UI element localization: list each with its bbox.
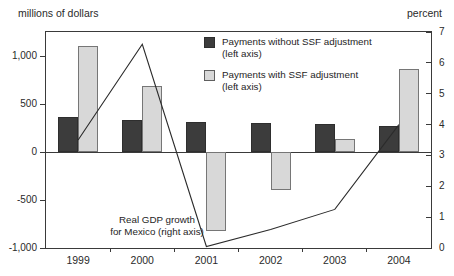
x-axis-label-2001: 2001 <box>195 254 218 266</box>
right-axis-tick <box>426 62 431 63</box>
left-axis-tick <box>40 152 45 153</box>
right-axis-tick-label: 6 <box>439 58 445 68</box>
right-axis-tick-label: 0 <box>439 243 445 253</box>
right-axis-tick <box>426 186 431 187</box>
x-axis-tick <box>174 248 175 252</box>
right-axis-tick <box>426 124 431 125</box>
right-axis-tick-label: 4 <box>439 120 445 130</box>
left-axis-tick <box>40 248 45 249</box>
right-axis-tick <box>426 248 431 249</box>
left-axis-tick-label: 1,000 <box>12 51 37 61</box>
left-axis-tick-label: 0 <box>31 147 37 157</box>
plot-area: Payments without SSF adjustment (left ax… <box>45 31 432 249</box>
x-axis-label-2004: 2004 <box>387 254 410 266</box>
chart-figure: millions of dollars percent Payments wit… <box>0 0 454 276</box>
x-axis-tick <box>366 248 367 252</box>
right-axis-tick-label: 2 <box>439 181 445 191</box>
right-axis-tick-label: 5 <box>439 89 445 99</box>
right-axis-tick <box>426 217 431 218</box>
right-axis-tick <box>426 32 431 33</box>
left-axis-tick <box>40 56 45 57</box>
right-axis-tick-label: 1 <box>439 212 445 222</box>
left-axis-tick-label: -1,000 <box>9 243 37 253</box>
right-axis-tick <box>426 93 431 94</box>
page: { "chart_data": { "type": "bar", "catego… <box>0 0 454 276</box>
left-axis-tick <box>40 104 45 105</box>
x-axis-label-1999: 1999 <box>66 254 89 266</box>
left-axis-tick <box>40 200 45 201</box>
left-axis-tick-label: -500 <box>17 195 37 205</box>
gdp-growth-line <box>46 32 431 248</box>
right-axis-tick-label: 3 <box>439 150 445 160</box>
x-axis-tick <box>238 248 239 252</box>
x-axis-tick <box>302 248 303 252</box>
right-axis-tick <box>426 155 431 156</box>
right-axis-tick-label: 7 <box>439 27 445 37</box>
left-axis-tick-label: 500 <box>20 99 37 109</box>
x-axis-tick <box>110 248 111 252</box>
left-axis-title: millions of dollars <box>18 7 99 19</box>
x-axis-label-2002: 2002 <box>259 254 282 266</box>
right-axis-title: percent <box>407 7 442 19</box>
x-axis-label-2000: 2000 <box>131 254 154 266</box>
x-axis-label-2003: 2003 <box>323 254 346 266</box>
